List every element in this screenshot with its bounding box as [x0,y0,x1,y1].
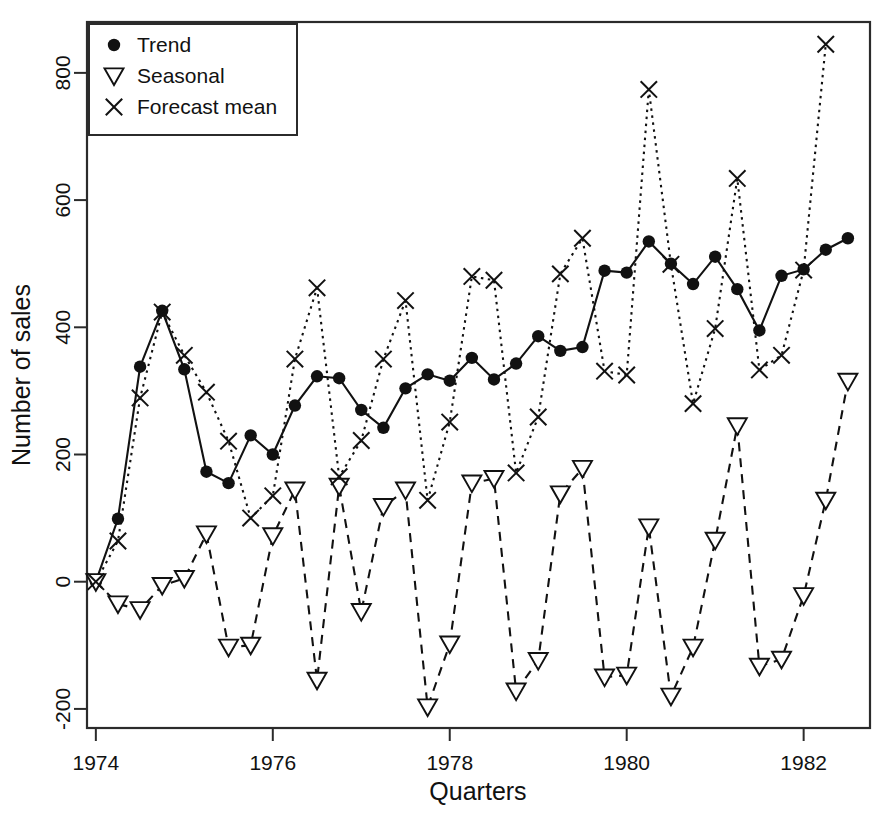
marker-trend-point [643,235,655,247]
x-tick-label: 1978 [426,751,473,774]
marker-trend-point [222,477,234,489]
marker-trend-point [289,399,301,411]
chart-figure: 19741976197819801982 -2000200400600800 Q… [0,0,881,814]
y-axis-ticks [74,73,87,709]
marker-seasonal-point [462,476,481,493]
marker-trend-point [620,266,632,278]
marker-seasonal-point [131,602,150,619]
marker-seasonal-point [551,486,570,503]
marker-seasonal-point [263,528,282,545]
marker-trend-point [753,324,765,336]
marker-seasonal-point [772,652,791,669]
chart-legend: TrendSeasonalForecast mean [89,24,297,135]
marker-seasonal-point [750,659,769,676]
y-tick-label: 600 [51,183,74,218]
marker-seasonal-point [794,588,813,605]
chart-plot-area: 19741976197819801982 -2000200400600800 Q… [0,0,881,814]
marker-trend-point [134,361,146,373]
x-axis-ticks [96,728,804,741]
marker-trend-point [820,244,832,256]
y-axis-tick-labels: -2000200400600800 [51,55,74,730]
marker-seasonal-point [330,479,349,496]
marker-trend-point [576,341,588,353]
y-axis-title: Number of sales [7,284,35,466]
marker-seasonal-point [175,571,194,588]
marker-trend-point [355,404,367,416]
y-tick-label: 200 [51,437,74,472]
marker-trend-point [244,429,256,441]
marker-seasonal-point [396,483,415,500]
x-tick-label: 1982 [780,751,827,774]
marker-trend-point [377,422,389,434]
marker-seasonal-point [153,578,172,595]
y-tick-label: 800 [51,55,74,90]
marker-trend-point [775,270,787,282]
marker-seasonal-point [440,636,459,653]
marker-seasonal-point [639,519,658,536]
x-tick-label: 1974 [72,751,119,774]
series-markers [86,36,857,716]
marker-trend-point [842,232,854,244]
marker-seasonal-point [684,640,703,657]
marker-seasonal-point [595,670,614,687]
marker-trend-point [510,357,522,369]
series-lines [96,44,848,707]
legend-label: Forecast mean [137,95,277,118]
marker-seasonal-point [197,526,216,543]
marker-trend-point [532,330,544,342]
marker-trend-point [488,373,500,385]
marker-trend-point [444,375,456,387]
x-axis-tick-labels: 19741976197819801982 [72,751,827,774]
legend-label: Seasonal [137,64,225,87]
marker-trend-point [421,368,433,380]
x-tick-label: 1976 [249,751,296,774]
marker-trend-point [267,448,279,460]
marker-trend-point [687,278,699,290]
y-tick-label: -200 [51,688,74,730]
marker-seasonal-point [661,689,680,706]
marker-seasonal-point [507,684,526,701]
marker-seasonal-point [706,533,725,550]
marker-trend-point [200,465,212,477]
marker-trend-point [731,283,743,295]
marker-trend-point [333,372,345,384]
marker-seasonal-point [816,493,835,510]
marker-seasonal-point [308,673,327,690]
marker-seasonal-point [838,374,857,391]
marker-seasonal-point [374,499,393,516]
x-tick-label: 1980 [603,751,650,774]
x-axis-title: Quarters [429,777,526,805]
marker-seasonal-point [352,604,371,621]
marker-trend-point [399,382,411,394]
marker-trend-point [178,363,190,375]
marker-seasonal-point [219,640,238,657]
marker-trend-point [598,264,610,276]
marker-seasonal-point [728,418,747,435]
marker-trend-point [311,370,323,382]
y-tick-label: 400 [51,310,74,345]
marker-trend-point [112,513,124,525]
marker-trend-point [554,345,566,357]
marker-trend-point [709,250,721,262]
marker-trend-point [466,352,478,364]
marker-seasonal-point [529,653,548,670]
y-tick-label: 0 [51,576,74,588]
marker-seasonal-point [285,483,304,500]
marker-trend-point [108,39,120,51]
legend-label: Trend [137,33,191,56]
marker-seasonal-point [418,699,437,716]
